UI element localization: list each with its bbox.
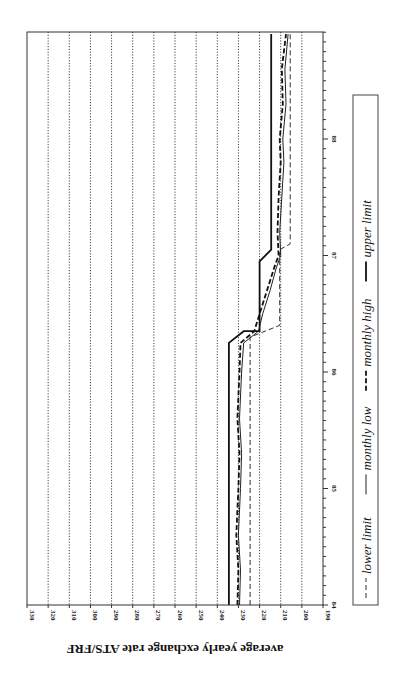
y-tick-label: 270 xyxy=(154,610,162,621)
y-tick-label: 210 xyxy=(281,610,289,621)
legend-label: lower limit xyxy=(359,517,374,574)
y-tick-label: 200 xyxy=(302,610,310,621)
y-tick-label: 230 xyxy=(239,610,247,621)
y-tick-label: 220 xyxy=(260,610,268,621)
x-tick-label: 85 xyxy=(330,485,338,493)
axis-ticks xyxy=(323,32,328,605)
x-tick-labels: 8485868788 xyxy=(330,136,338,610)
gridlines xyxy=(48,32,302,605)
y-tick-label: 320 xyxy=(49,610,57,621)
x-tick-label: 87 xyxy=(330,252,338,260)
y-tick-label: 250 xyxy=(197,610,205,621)
legend-label: monthly low xyxy=(359,406,374,470)
legend-label: monthly high xyxy=(359,299,374,367)
y-tick-label: 240 xyxy=(218,610,226,621)
legend: lower limitmonthly lowmonthly highupper … xyxy=(353,95,378,605)
legend-label: upper limit xyxy=(359,200,374,258)
y-tick-label: 260 xyxy=(176,610,184,621)
exchange-rate-chart: 3303203103002902802702602502402302202102… xyxy=(0,0,403,685)
y-tick-label: 330 xyxy=(28,610,36,621)
y-tick-labels: 3303203103002902802702602502402302202102… xyxy=(27,605,332,621)
y-tick-label: 290 xyxy=(112,610,120,621)
x-tick-label: 86 xyxy=(330,369,338,377)
x-tick-label: 88 xyxy=(330,136,338,144)
y-tick-label: 300 xyxy=(91,610,99,621)
y-tick-label: 280 xyxy=(133,610,141,621)
y-tick-label: 190 xyxy=(324,610,332,621)
y-axis-title: average yearly exchange rate ATS/FRF xyxy=(66,642,283,657)
y-tick-label: 310 xyxy=(70,610,78,621)
x-tick-label: 84 xyxy=(330,602,338,610)
series-upper-limit xyxy=(229,34,271,605)
